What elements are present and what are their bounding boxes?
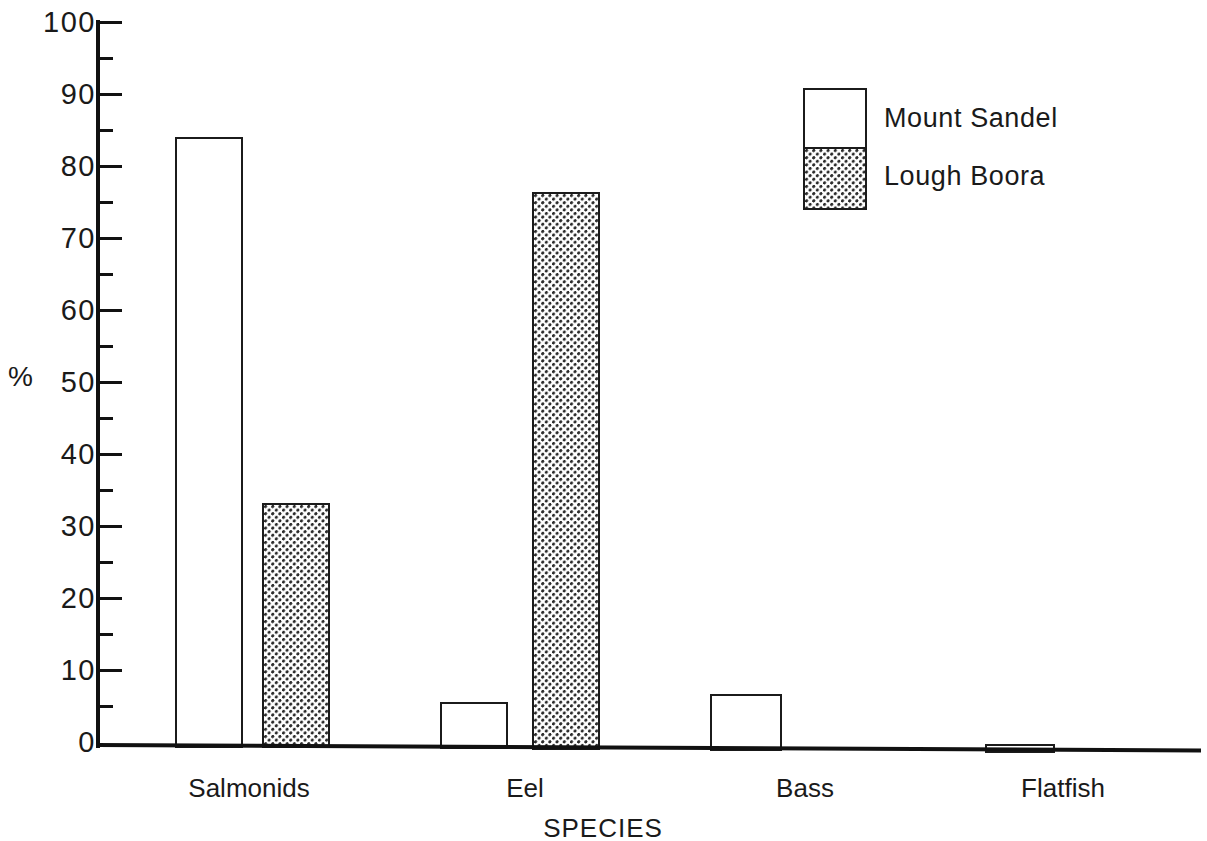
- legend-label-lough-boora: Lough Boora: [884, 163, 1045, 190]
- x-axis-title: SPECIES: [543, 815, 663, 841]
- y-tick-major-70: [100, 237, 122, 240]
- y-tick-label-80: 80: [18, 152, 96, 181]
- y-tick-major-30: [100, 525, 122, 528]
- y-tick-label-20: 20: [18, 584, 96, 613]
- y-tick-major-20: [100, 597, 122, 600]
- bar-chart-figure: 100 90 80 70 60 50 40 30 20 10 0 % Salmo…: [0, 0, 1207, 841]
- y-tick-major-60: [100, 309, 122, 312]
- bar-salmonids-lough-boora: [262, 503, 330, 748]
- x-tick-label-flatfish: Flatfish: [1021, 775, 1105, 801]
- y-tick-label-60: 60: [18, 296, 96, 325]
- y-tick-label-70: 70: [18, 224, 96, 253]
- y-tick-label-100: 100: [18, 8, 96, 37]
- y-tick-label-0: 0: [18, 728, 96, 757]
- x-tick-label-eel: Eel: [506, 775, 544, 801]
- y-tick-minor-85: [100, 129, 113, 132]
- legend-swatch-mount-sandel: [805, 90, 865, 149]
- y-tick-label-10: 10: [18, 656, 96, 685]
- y-tick-minor-55: [100, 345, 113, 348]
- legend-swatch-lough-boora: [805, 149, 865, 208]
- bar-bass-mount-sandel: [710, 694, 782, 751]
- bar-salmonids-mount-sandel: [175, 137, 243, 748]
- y-tick-label-30: 30: [18, 512, 96, 541]
- y-tick-major-90: [100, 93, 122, 96]
- y-tick-minor-45: [100, 417, 113, 420]
- legend-label-mount-sandel: Mount Sandel: [884, 105, 1058, 132]
- bar-eel-mount-sandel: [440, 702, 508, 749]
- y-tick-label-40: 40: [18, 440, 96, 469]
- bar-eel-lough-boora: [532, 192, 600, 750]
- x-tick-label-salmonids: Salmonids: [188, 775, 309, 801]
- y-tick-minor-15: [100, 633, 113, 636]
- y-tick-minor-65: [100, 273, 113, 276]
- legend-swatch-box: [803, 88, 867, 210]
- y-tick-minor-95: [100, 57, 113, 60]
- y-tick-minor-35: [100, 489, 113, 492]
- y-tick-minor-25: [100, 561, 113, 564]
- y-tick-label-90: 90: [18, 80, 96, 109]
- x-tick-label-bass: Bass: [776, 775, 834, 801]
- y-tick-major-100: [100, 21, 122, 24]
- y-tick-major-40: [100, 453, 122, 456]
- y-axis-ticks: 100 90 80 70 60 50 40 30 20 10 0: [0, 0, 96, 841]
- y-tick-minor-5: [100, 705, 113, 708]
- y-tick-major-10: [100, 669, 122, 672]
- y-tick-major-50: [100, 381, 122, 384]
- y-tick-major-80: [100, 165, 122, 168]
- y-tick-minor-75: [100, 201, 113, 204]
- y-axis-title: %: [8, 363, 33, 391]
